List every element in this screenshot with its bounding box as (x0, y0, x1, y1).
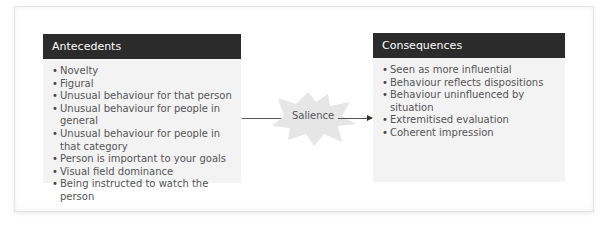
list-item: Figural (52, 78, 235, 91)
list-item: Person is important to your goals (52, 153, 235, 166)
salience-label: Salience (292, 110, 334, 121)
list-item: Behaviour reflects dispositions (382, 77, 559, 90)
consequences-box: Consequences Seen as more influential Be… (373, 33, 565, 182)
list-item: Extremitised evaluation (382, 114, 559, 127)
list-item: Behaviour uninfluenced by situation (382, 89, 559, 114)
list-item: Seen as more influential (382, 64, 559, 77)
antecedents-list: Novelty Figural Unusual behaviour for th… (43, 59, 241, 210)
antecedents-box: Antecedents Novelty Figural Unusual beha… (43, 34, 241, 183)
list-item: Coherent impression (382, 127, 559, 140)
antecedents-title: Antecedents (43, 34, 241, 59)
list-item: Being instructed to watch the person (52, 178, 235, 203)
list-item: Novelty (52, 65, 235, 78)
arrow-right-icon (338, 118, 372, 119)
consequences-list: Seen as more influential Behaviour refle… (373, 58, 565, 146)
list-item: Unusual behaviour for people in general (52, 103, 235, 128)
list-item: Unusual behaviour for that person (52, 90, 235, 103)
consequences-title: Consequences (373, 33, 565, 58)
list-item: Unusual behaviour for people in that cat… (52, 128, 235, 153)
list-item: Visual field dominance (52, 166, 235, 179)
